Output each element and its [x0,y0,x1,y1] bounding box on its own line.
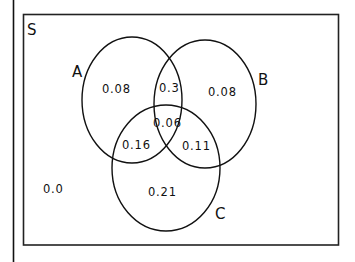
set-C-label: C [215,205,225,223]
region-C-only-value: 0.21 [148,185,177,199]
region-A-B-value: 0.3 [159,81,180,95]
set-A-label: A [72,63,83,81]
region-B-C-value: 0.11 [182,139,211,153]
region-B-only-value: 0.08 [208,85,237,99]
venn-diagram: S A B C 0.08 0.3 0.08 0.06 0.16 0.11 0.2… [0,0,355,262]
region-A-only-value: 0.08 [102,82,131,96]
region-outside-value: 0.0 [43,182,64,196]
set-B-label: B [258,71,268,89]
universe-label: S [27,21,37,39]
region-A-C-value: 0.16 [122,138,151,152]
region-A-B-C-value: 0.06 [153,116,182,130]
